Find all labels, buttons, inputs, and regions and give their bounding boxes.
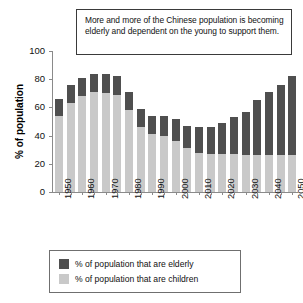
y-tick-label: 40 bbox=[34, 130, 45, 141]
bar-segment-elderly bbox=[253, 100, 261, 155]
x-tick-mark bbox=[71, 192, 72, 195]
x-tick-mark bbox=[281, 192, 282, 195]
bar-segment-elderly bbox=[148, 116, 156, 134]
bar-1990 bbox=[148, 116, 156, 192]
bar-1980 bbox=[125, 92, 133, 192]
bar-segment-children bbox=[265, 155, 273, 192]
x-tick-mark bbox=[176, 192, 177, 195]
bar-2040 bbox=[265, 92, 273, 192]
bar-segment-elderly bbox=[242, 112, 250, 156]
legend-swatch-elderly-icon bbox=[59, 259, 69, 269]
x-tick-mark bbox=[164, 192, 165, 195]
bar-segment-elderly bbox=[113, 76, 121, 94]
x-tick-mark bbox=[106, 192, 107, 195]
bar-segment-elderly bbox=[55, 99, 63, 116]
x-tick-mark bbox=[222, 192, 223, 195]
x-tick-mark bbox=[187, 192, 188, 195]
bar-segment-elderly bbox=[125, 92, 133, 110]
x-tick-mark bbox=[199, 192, 200, 195]
legend-item-children: % of population that are children bbox=[59, 271, 240, 286]
bar-segment-elderly bbox=[230, 117, 238, 154]
bar-1965 bbox=[90, 74, 98, 192]
x-tick-label-2010: 2010 bbox=[203, 178, 213, 199]
x-tick-label-2040: 2040 bbox=[273, 178, 283, 199]
x-tick-mark bbox=[82, 192, 83, 195]
bar-2010 bbox=[195, 127, 203, 192]
bar-segment-children bbox=[242, 155, 250, 192]
bar-segment-children bbox=[195, 153, 203, 192]
x-tick-label-2000: 2000 bbox=[180, 178, 190, 199]
x-tick-mark bbox=[257, 192, 258, 195]
bar-segment-elderly bbox=[265, 92, 273, 155]
bar-2020 bbox=[218, 123, 226, 192]
bar-2000 bbox=[172, 119, 180, 192]
bar-1955 bbox=[67, 85, 75, 192]
bar-segment-elderly bbox=[218, 123, 226, 154]
x-tick-label-1950: 1950 bbox=[63, 178, 73, 199]
x-tick-mark bbox=[292, 192, 293, 195]
bar-1970 bbox=[102, 74, 110, 192]
bar-segment-children bbox=[172, 141, 180, 192]
chart-container: More and more of the Chinese population … bbox=[0, 0, 303, 303]
bar-segment-children bbox=[90, 92, 98, 192]
bar-segment-children bbox=[288, 155, 296, 192]
bar-segment-elderly bbox=[207, 127, 215, 154]
y-tick-label: 20 bbox=[34, 158, 45, 169]
x-tick-mark bbox=[211, 192, 212, 195]
bar-2030 bbox=[242, 112, 250, 192]
chart-legend: % of population that are elderly % of po… bbox=[49, 250, 241, 293]
bar-1950 bbox=[55, 99, 63, 192]
x-tick-label-2030: 2030 bbox=[250, 178, 260, 199]
bar-segment-elderly bbox=[102, 74, 110, 94]
x-tick-label-2050: 2050 bbox=[296, 178, 303, 199]
plot-area: 020406080100 195019601970198019902000201… bbox=[53, 51, 298, 192]
bar-segment-children bbox=[148, 134, 156, 192]
y-axis-title: % of population bbox=[14, 62, 25, 182]
x-tick-mark bbox=[94, 192, 95, 195]
x-tick-mark bbox=[234, 192, 235, 195]
y-tick-label: 0 bbox=[40, 186, 45, 197]
x-tick-label-1990: 1990 bbox=[156, 178, 166, 199]
annotation-text: More and more of the Chinese population … bbox=[85, 15, 285, 38]
legend-label-elderly: % of population that are elderly bbox=[75, 259, 193, 269]
y-tick-mark bbox=[49, 192, 53, 193]
legend-label-children: % of population that are children bbox=[75, 274, 198, 284]
bar-segment-elderly bbox=[160, 116, 168, 136]
legend-swatch-children-icon bbox=[59, 274, 69, 284]
bar-1975 bbox=[113, 76, 121, 192]
bar-segment-elderly bbox=[288, 76, 296, 155]
bar-2050 bbox=[288, 76, 296, 192]
bar-segment-children bbox=[55, 116, 63, 192]
bar-segment-children bbox=[102, 93, 110, 192]
annotation-callout: More and more of the Chinese population … bbox=[76, 9, 292, 55]
x-tick-label-1980: 1980 bbox=[133, 178, 143, 199]
x-tick-mark bbox=[141, 192, 142, 195]
legend-item-elderly: % of population that are elderly bbox=[59, 256, 240, 271]
x-tick-mark bbox=[152, 192, 153, 195]
y-tick-label: 80 bbox=[34, 73, 45, 84]
bar-segment-elderly bbox=[90, 74, 98, 92]
y-tick-label: 100 bbox=[29, 45, 45, 56]
y-tick-label: 60 bbox=[34, 101, 45, 112]
bar-segment-elderly bbox=[137, 109, 145, 127]
x-tick-mark bbox=[117, 192, 118, 195]
bar-segment-elderly bbox=[195, 127, 203, 152]
x-tick-label-1960: 1960 bbox=[86, 178, 96, 199]
x-tick-mark bbox=[246, 192, 247, 195]
bar-series-group bbox=[53, 51, 298, 192]
x-tick-mark bbox=[129, 192, 130, 195]
x-tick-mark bbox=[269, 192, 270, 195]
bar-2045 bbox=[277, 85, 285, 192]
x-tick-mark bbox=[59, 192, 60, 195]
bar-segment-elderly bbox=[172, 119, 180, 142]
bar-1960 bbox=[78, 78, 86, 192]
x-tick-label-1970: 1970 bbox=[110, 178, 120, 199]
bar-segment-children bbox=[78, 96, 86, 192]
bar-segment-children bbox=[218, 154, 226, 192]
bar-segment-children bbox=[125, 110, 133, 192]
bar-segment-elderly bbox=[183, 126, 191, 149]
bar-segment-elderly bbox=[277, 85, 285, 156]
bar-segment-elderly bbox=[67, 85, 75, 103]
x-tick-label-2020: 2020 bbox=[226, 178, 236, 199]
bar-segment-elderly bbox=[78, 78, 86, 96]
